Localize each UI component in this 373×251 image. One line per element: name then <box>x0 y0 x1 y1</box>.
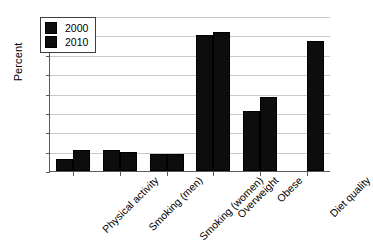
legend-swatch-2000-icon <box>45 22 57 34</box>
bar <box>307 41 324 171</box>
bar <box>260 97 277 171</box>
legend-label: 2000 <box>65 22 88 34</box>
bar-group <box>143 17 190 171</box>
bar-group <box>190 17 237 171</box>
bar-group <box>283 17 330 171</box>
bar <box>150 154 167 171</box>
bar-group <box>97 17 144 171</box>
y-axis-tick-mark <box>46 172 50 173</box>
x-axis-labels: Physical activitySmoking (men)Smoking (w… <box>49 174 330 251</box>
legend-item: 2000 <box>45 21 88 35</box>
bar <box>243 111 260 171</box>
bar <box>73 150 90 171</box>
y-axis-title: Percent <box>12 22 24 102</box>
bar <box>213 32 230 172</box>
bar <box>196 35 213 171</box>
bar <box>56 159 73 171</box>
bar <box>120 152 137 171</box>
legend-swatch-2010-icon <box>45 36 57 48</box>
bar-group <box>237 17 284 171</box>
legend-item: 2010 <box>45 35 88 49</box>
legend: 2000 2010 <box>40 17 96 53</box>
x-axis-tick-label: Diet quality <box>327 174 372 219</box>
legend-label: 2010 <box>65 36 88 48</box>
x-axis-tick-label: Obese <box>274 174 304 204</box>
bar <box>167 154 184 171</box>
bar <box>103 150 120 171</box>
